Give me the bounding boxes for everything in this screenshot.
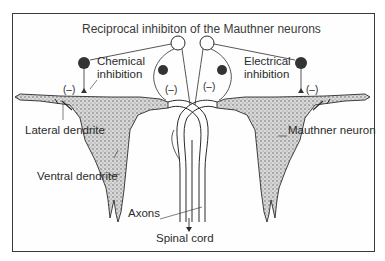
interneurons — [171, 36, 214, 50]
inhibition-mark-3: (–) — [203, 81, 215, 92]
chemical-label-line2: inhibition — [97, 68, 145, 81]
mauthner-neuron-label: Mauthner neuron — [288, 124, 376, 137]
inhibition-mark-1: (–) — [63, 84, 75, 95]
left-mauthner-neuron — [15, 94, 168, 222]
chemical-inhibition-label: Chemical inhibition — [97, 55, 145, 80]
inhibition-mark-4: (–) — [306, 84, 318, 95]
electrical-label-line1: Electrical — [244, 55, 291, 68]
electrical-inhibition-label: Electrical inhibition — [244, 55, 291, 80]
inhibition-mark-2: (–) — [165, 84, 177, 95]
axons — [168, 100, 217, 222]
ventral-dendrite-label: Ventral dendrite — [37, 170, 118, 183]
lateral-dendrite-label: Lateral dendrite — [25, 124, 105, 137]
chemical-label-line1: Chemical — [97, 55, 145, 68]
synaptic-terminals — [81, 88, 304, 93]
right-mauthner-neuron — [217, 94, 370, 222]
figure-title: Reciprocal inhibiton of the Mauthner neu… — [82, 23, 321, 36]
electrical-label-line2: inhibition — [244, 68, 291, 81]
axons-label: Axons — [128, 207, 160, 220]
spinal-cord-label: Spinal cord — [156, 232, 214, 245]
spinal-cord-arrow — [186, 218, 192, 232]
